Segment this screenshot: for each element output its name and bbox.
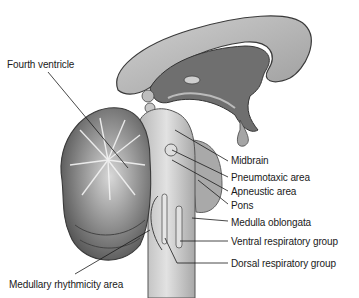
label-pons: Pons [231, 200, 253, 212]
label-medullary-rhythmicity-area: Medullary rhythmicity area [9, 279, 123, 291]
label-medulla-oblongata: Medulla oblongata [231, 217, 311, 229]
dorsal-respiratory-group-column [162, 194, 167, 244]
label-dorsal-respiratory-group: Dorsal respiratory group [231, 258, 336, 270]
brainstem-illustration [0, 0, 359, 298]
label-midbrain: Midbrain [231, 155, 269, 167]
ventral-respiratory-group-column [176, 206, 182, 248]
label-apneustic-area: Apneustic area [231, 186, 296, 198]
label-pneumotaxic-area: Pneumotaxic area [231, 172, 310, 184]
label-ventral-respiratory-group: Ventral respiratory group [231, 236, 338, 248]
label-fourth-ventricle: Fourth ventricle [7, 59, 74, 71]
